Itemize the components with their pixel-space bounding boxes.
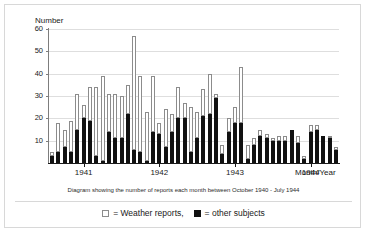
x-axis-tick-label: 1942 [150,168,168,177]
bar [63,130,67,163]
bar-segment-weather-reports [101,76,105,161]
y-axis-tick-label: 30 [21,92,43,100]
bar [120,96,124,163]
bar-segment-other-subjects [265,138,269,163]
bar-segment-weather-reports [239,67,243,123]
x-axis-tick-label: 1943 [226,168,244,177]
bar-segment-weather-reports [107,94,111,132]
bar-segment-other-subjects [183,118,187,163]
bar-segment-other-subjects [233,123,237,163]
bar-segment-other-subjects [334,150,338,163]
bar-segment-other-subjects [107,132,111,163]
bar-segment-other-subjects [246,159,250,163]
x-axis-line [48,163,340,164]
bar [101,76,105,163]
bar-segment-other-subjects [309,132,313,163]
bar-segment-other-subjects [82,118,86,163]
bar-segment-weather-reports [170,114,174,132]
bar-segment-other-subjects [315,130,319,164]
gridline [49,74,339,75]
legend-item: = Weather reports, [102,208,183,218]
legend-item-label: = other subjects [205,208,265,218]
bar-segment-other-subjects [252,145,256,163]
bar [75,94,79,163]
gridline [49,51,339,52]
y-axis-tick-label: 60 [21,25,43,33]
bar-segment-weather-reports [88,87,92,121]
bar-segment-other-subjects [164,147,168,163]
bar [220,145,224,163]
legend-item-label: = Weather reports, [113,208,183,218]
bar-segment-weather-reports [145,112,149,161]
bar-segment-other-subjects [145,161,149,163]
bar-segment-weather-reports [94,87,98,156]
bar-segment-weather-reports [126,85,130,114]
bar-segment-weather-reports [164,109,168,147]
bar-segment-other-subjects [201,116,205,163]
bar-segment-other-subjects [195,138,199,163]
bar-segment-weather-reports [252,138,256,145]
bar-segment-weather-reports [120,96,124,138]
bar-segment-other-subjects [75,130,79,164]
bar [157,123,161,163]
bar-segment-weather-reports [176,87,180,118]
bar [302,156,306,163]
bar-segment-other-subjects [69,152,73,163]
bar-segment-weather-reports [63,130,67,148]
bar-segment-other-subjects [113,138,117,163]
bar [201,89,205,163]
bar [82,105,86,163]
x-axis-tick-mark [159,164,160,167]
gridline [49,29,339,30]
bar [138,76,142,163]
bar-segment-other-subjects [101,161,105,163]
bar-segment-weather-reports [220,145,224,154]
bar [277,136,281,163]
legend-item: = other subjects [194,208,265,218]
bar-segment-weather-reports [56,123,60,152]
bar [309,125,313,163]
bar [107,94,111,163]
plot-area [49,29,339,163]
bar-segment-other-subjects [214,98,218,163]
y-axis-tick-label: 40 [21,70,43,78]
bar-segment-other-subjects [271,141,275,163]
bar-segment-weather-reports [75,94,79,130]
bar [214,94,218,163]
bar-segment-weather-reports [258,130,262,137]
bar-segment-weather-reports [208,74,212,114]
x-axis-tick-mark [311,164,312,167]
bar-segment-other-subjects [170,132,174,163]
legend: = Weather reports,= other subjects [5,208,362,218]
legend-divider [15,201,352,202]
bar-segment-weather-reports [113,94,117,139]
bar-segment-weather-reports [132,36,136,150]
y-axis-tick-label: 10 [21,137,43,145]
bar-segment-other-subjects [138,152,142,163]
bar-segment-other-subjects [277,141,281,163]
bar [271,138,275,163]
bar-segment-weather-reports [227,118,231,131]
bar [132,36,136,163]
bar-segment-other-subjects [283,141,287,163]
bar-segment-other-subjects [321,136,325,163]
bar-segment-weather-reports [309,125,313,132]
bar [145,112,149,163]
bar-segment-other-subjects [56,152,60,163]
bar-segment-other-subjects [189,152,193,163]
bar-segment-weather-reports [246,145,250,158]
bar-segment-other-subjects [50,156,54,163]
bar-segment-weather-reports [233,107,237,123]
bar [328,136,332,163]
figure-caption: Diagram showing the number of reports ea… [5,187,362,193]
legend-swatch-other-subjects [194,210,201,217]
y-axis-tick-label: 50 [21,47,43,55]
bar [126,85,130,163]
bar [183,103,187,163]
bar-segment-other-subjects [220,154,224,163]
bar [315,125,319,163]
bar [151,76,155,163]
bar-segment-weather-reports [82,105,86,118]
x-axis-tick-mark [84,164,85,167]
bar-segment-weather-reports [183,103,187,119]
